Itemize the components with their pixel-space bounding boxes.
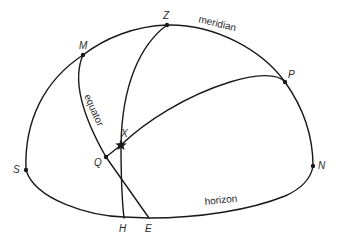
point-p-dot [283, 80, 287, 84]
point-m-dot [81, 53, 85, 57]
label-s: S [13, 164, 20, 175]
label-p: P [288, 69, 295, 80]
label-n: N [318, 160, 326, 171]
point-s-dot [24, 168, 28, 172]
point-q-dot [104, 155, 108, 159]
meridian-curve [26, 25, 313, 170]
label-h: H [119, 223, 127, 234]
hour-circle-curve [106, 76, 285, 157]
label-z: Z [162, 10, 170, 21]
label-e: E [145, 223, 152, 234]
horizon-curve [26, 166, 313, 218]
point-n-dot [311, 164, 315, 168]
label-x: X [120, 128, 128, 139]
label-meridian: meridian [198, 13, 238, 33]
equator-curve [79, 55, 149, 218]
label-q: Q [94, 157, 102, 168]
label-equator: equator [82, 92, 106, 128]
point-z-dot [165, 23, 169, 27]
label-m: M [79, 40, 88, 51]
label-horizon: horizon [204, 193, 238, 207]
celestial-sphere-diagram: Z M P X Q S N H E meridian equator horiz… [0, 0, 338, 241]
